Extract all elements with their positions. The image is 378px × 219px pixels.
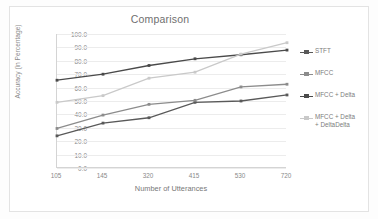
legend-swatch-icon [300, 92, 313, 101]
legend-item[interactable]: MFCC + Delta + DeltaDelta [300, 113, 374, 129]
y-axis-label: Accuracy (in Percentage) [14, 12, 21, 112]
series-marker [56, 101, 59, 104]
series-marker [102, 114, 105, 117]
legend-label: MFCC + Delta [315, 91, 355, 99]
series-marker [194, 99, 197, 102]
series-line [57, 43, 287, 103]
series-marker [148, 64, 151, 67]
series-lines [57, 34, 287, 168]
x-tick-label: 720 [271, 172, 301, 179]
x-tick-label: 530 [225, 172, 255, 179]
chart-legend: STFTMFCCMFCC + DeltaMFCC + Delta + Delta… [300, 47, 374, 141]
series-marker [102, 122, 105, 125]
series-marker [148, 77, 151, 80]
x-tick-label: 320 [133, 172, 163, 179]
series-marker [148, 116, 151, 119]
legend-item[interactable]: MFCC + Delta [300, 91, 374, 101]
series-marker [240, 53, 243, 56]
x-tick-label: 145 [87, 172, 117, 179]
series-marker [102, 94, 105, 97]
gridline [57, 168, 286, 169]
series-marker [56, 127, 59, 130]
series-marker [56, 134, 59, 137]
series-marker [240, 100, 243, 103]
legend-label: MFCC [315, 69, 333, 77]
series-marker [102, 73, 105, 76]
series-marker [194, 71, 197, 74]
series-marker [286, 49, 289, 52]
chart-figure: Comparison Accuracy (in Percentage) 0.01… [0, 0, 378, 219]
x-tick-label: 105 [41, 172, 71, 179]
plot-area [56, 34, 286, 168]
legend-swatch-icon [300, 114, 313, 123]
series-marker [194, 57, 197, 60]
series-marker [286, 83, 289, 86]
series-marker [148, 103, 151, 106]
legend-item[interactable]: STFT [300, 47, 374, 57]
legend-swatch-icon [300, 70, 313, 79]
chart-title: Comparison [55, 13, 265, 25]
legend-label: STFT [315, 47, 331, 55]
series-line [57, 95, 287, 136]
legend-item[interactable]: MFCC [300, 69, 374, 79]
x-tick-label: 415 [179, 172, 209, 179]
legend-label: MFCC + Delta + DeltaDelta [315, 113, 355, 129]
series-marker [286, 41, 289, 44]
series-marker [56, 79, 59, 82]
x-axis-label: Number of Utterances [56, 184, 286, 193]
legend-swatch-icon [300, 48, 313, 57]
series-marker [240, 86, 243, 89]
series-line [57, 84, 287, 128]
series-marker [286, 94, 289, 97]
